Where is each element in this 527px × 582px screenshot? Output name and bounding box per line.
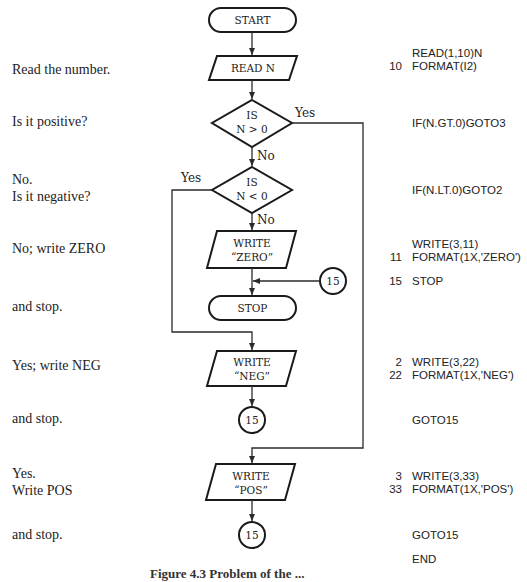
description-write-pos: Yes. Write POS <box>12 465 73 499</box>
code-statement: IF(N.GT.0)GOTO3 <box>412 117 506 129</box>
write-pos-line2: “POS” <box>234 484 268 496</box>
code-line: WRITE(3,11) <box>412 238 478 251</box>
description-line: and stop. <box>12 526 63 543</box>
description-line: Yes; write NEG <box>12 357 101 374</box>
code-line: 33 FORMAT(1X,'POS') <box>412 483 513 496</box>
code-line: 11 FORMAT(1X,'ZERO') <box>412 251 521 264</box>
code-label: 22 <box>372 369 402 382</box>
code-line: 2 WRITE(3,22) <box>412 356 479 369</box>
write-pos-line1: WRITE <box>232 470 270 482</box>
code-label: 2 <box>372 356 402 369</box>
write-zero-line1: WRITE <box>233 237 271 249</box>
description-write-zero: No; write ZERO <box>12 240 105 257</box>
code-label: 15 <box>372 275 402 288</box>
connector-neg-label: 15 <box>245 414 258 426</box>
figure-caption: Figure 4.3 Problem of the ... <box>150 566 304 582</box>
start-label: START <box>235 14 271 26</box>
code-label: 10 <box>372 60 402 73</box>
code-line: 22 FORMAT(1X,'NEG') <box>412 369 514 382</box>
code-line: GOTO15 <box>412 414 458 427</box>
code-statement: FORMAT(1X,'POS') <box>412 483 513 495</box>
description-line: Read the number. <box>12 61 110 78</box>
write-neg-line1: WRITE <box>233 356 271 368</box>
code-statement: WRITE(3,33) <box>412 470 479 482</box>
description-line: Yes. <box>12 465 73 482</box>
connector-15-neg: 15 <box>239 407 265 433</box>
connector-pos-label: 15 <box>245 529 258 541</box>
code-line: READ(1,10)N <box>412 47 482 60</box>
code-statement: FORMAT(1X,'NEG') <box>412 369 514 381</box>
code-line: END <box>412 553 436 566</box>
code-statement: FORMAT(1X,'ZERO') <box>412 251 521 263</box>
write-pos-node: WRITE “POS” <box>206 464 295 500</box>
connector-15-stop: 15 <box>320 268 346 294</box>
write-zero-line2: “ZERO” <box>231 251 273 263</box>
code-statement: STOP <box>412 275 443 287</box>
decision2-line2: N < 0 <box>236 190 267 202</box>
code-statement: WRITE(3,11) <box>412 238 478 250</box>
description-stop-2: and stop. <box>12 410 63 427</box>
code-statement: IF(N.LT.0)GOTO2 <box>412 184 502 196</box>
write-neg-line2: “NEG” <box>234 370 270 382</box>
code-line: IF(N.GT.0)GOTO3 <box>412 117 506 130</box>
decision2-no-label: No <box>257 213 275 227</box>
description-line: No; write ZERO <box>12 240 105 257</box>
description-line: and stop. <box>12 410 63 427</box>
code-statement: GOTO15 <box>412 414 458 426</box>
arrow-decision2-yes <box>172 190 252 350</box>
description-positive: Is it positive? <box>12 113 87 130</box>
description-line: Is it negative? <box>12 188 91 205</box>
code-line: IF(N.LT.0)GOTO2 <box>412 184 502 197</box>
code-statement: GOTO15 <box>412 529 458 541</box>
decision-negative: IS N < 0 <box>212 167 292 213</box>
write-neg-node: WRITE “NEG” <box>207 351 296 386</box>
decision1-yes-label: Yes <box>294 106 315 120</box>
description-line: Write POS <box>12 482 73 499</box>
read-input-node: READ N <box>209 56 297 80</box>
description-read: Read the number. <box>12 61 110 78</box>
connector-zero-label: 15 <box>326 275 339 287</box>
description-line: Is it positive? <box>12 113 87 130</box>
decision-positive: IS N > 0 <box>212 100 292 147</box>
code-label: 3 <box>372 470 402 483</box>
decision1-line1: IS <box>246 109 257 121</box>
code-label: 33 <box>372 483 402 496</box>
code-line: 15 STOP <box>412 275 443 288</box>
read-label: READ N <box>231 62 275 74</box>
code-statement: FORMAT(I2) <box>412 60 477 72</box>
arrow-decision1-yes <box>252 123 363 463</box>
description-write-neg: Yes; write NEG <box>12 357 101 374</box>
connector-15-pos: 15 <box>239 522 265 548</box>
code-statement: END <box>412 553 436 565</box>
code-label: 11 <box>372 251 402 264</box>
description-line: No. <box>12 171 91 188</box>
decision2-line1: IS <box>246 176 257 188</box>
decision1-no-label: No <box>257 149 275 163</box>
description-stop-3: and stop. <box>12 526 63 543</box>
code-statement: READ(1,10)N <box>412 47 482 59</box>
stop-terminal: STOP <box>209 296 296 320</box>
stop-label: STOP <box>238 302 268 314</box>
code-statement: WRITE(3,22) <box>412 356 479 368</box>
code-line: 3 WRITE(3,33) <box>412 470 479 483</box>
start-terminal: START <box>209 8 296 32</box>
description-negative: No. Is it negative? <box>12 171 91 205</box>
code-line: 10 FORMAT(I2) <box>412 60 477 73</box>
decision2-yes-label: Yes <box>180 171 201 185</box>
description-line: and stop. <box>12 298 63 315</box>
code-line: GOTO15 <box>412 529 458 542</box>
decision1-line2: N > 0 <box>236 123 267 135</box>
write-zero-node: WRITE “ZERO” <box>207 231 296 268</box>
description-stop-1: and stop. <box>12 298 63 315</box>
